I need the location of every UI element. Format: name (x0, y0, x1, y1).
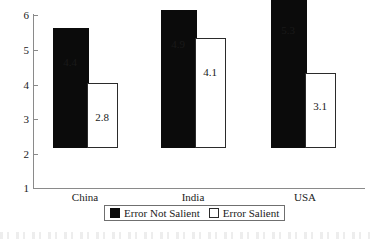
y-tick-mark-4 (34, 85, 38, 86)
y-tick-label-3: 3 (7, 114, 29, 125)
legend-entry-error-not-salient[interactable]: Error Not Salient (110, 208, 200, 219)
legend-entry-error-salient[interactable]: Error Salient (209, 208, 280, 219)
bar-china-error-not-salient[interactable] (53, 28, 89, 148)
y-tick-mark-3 (34, 119, 38, 120)
y-axis-line (33, 14, 34, 189)
bar-india-error-salient[interactable] (195, 38, 226, 148)
page-scan-artifact (0, 232, 370, 239)
y-tick-label-5: 5 (7, 45, 29, 56)
y-tick-label-2: 2 (7, 149, 29, 160)
bar-usa-error-not-salient[interactable] (271, 0, 307, 148)
bar-value-india-error-salient: 4.1 (190, 67, 230, 78)
legend-label-error-salient: Error Salient (223, 208, 280, 219)
y-tick-label-1: 1 (7, 183, 29, 194)
y-tick-mark-5 (34, 50, 38, 51)
bar-value-china-error-not-salient: 4.4 (50, 57, 90, 68)
y-tick-label-6: 6 (7, 10, 29, 21)
y-tick-label-4: 4 (7, 80, 29, 91)
bar-value-india-error-not-salient: 4.9 (158, 39, 198, 50)
bar-chart: 6 5 4 3 2 1 4.4 2.8 China 4.9 4.1 India … (0, 0, 370, 241)
legend-label-error-not-salient: Error Not Salient (124, 208, 200, 219)
bar-value-usa-error-salient: 3.1 (300, 101, 340, 112)
bar-value-usa-error-not-salient: 5.3 (268, 25, 308, 36)
bar-india-error-not-salient[interactable] (161, 10, 197, 148)
x-axis-label-usa: USA (275, 191, 335, 203)
open-square-icon (209, 208, 219, 218)
bar-value-china-error-salient: 2.8 (82, 112, 122, 123)
y-tick-mark-2 (34, 154, 38, 155)
x-axis-label-india: India (163, 191, 223, 203)
y-tick-mark-1 (34, 188, 38, 189)
plot-area: 6 5 4 3 2 1 4.4 2.8 China 4.9 4.1 India … (0, 0, 370, 200)
filled-square-icon (110, 208, 120, 218)
x-axis-label-china: China (55, 191, 115, 203)
x-axis-line (33, 188, 365, 189)
chart-legend: Error Not Salient Error Salient (104, 205, 285, 221)
y-tick-mark-6 (34, 15, 38, 16)
